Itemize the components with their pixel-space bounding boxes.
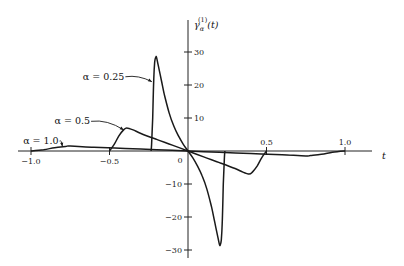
x-tick-label: 1.0 — [339, 138, 352, 147]
y-axis-label-arg: (t) — [207, 19, 219, 30]
y-axis-label: γα(1)(t) — [194, 16, 219, 33]
annotation-leader-arrow — [125, 76, 152, 81]
y-tick-label: 30 — [194, 48, 204, 57]
arrowhead-icon — [60, 142, 63, 146]
x-ticks: −1.0−0.50.51.0 — [21, 138, 351, 166]
x-tick-label: −1.0 — [21, 157, 40, 166]
x-tick-label: 0.5 — [260, 138, 273, 147]
series-annotation-label: α = 1.0 — [23, 135, 59, 146]
y-axis-label-sup: (1) — [198, 16, 208, 24]
x-tick-label: −0.5 — [100, 157, 119, 166]
y-tick-label: 20 — [194, 81, 204, 90]
series-annotation-label: α = 0.25 — [83, 71, 125, 82]
y-tick-label: −30 — [165, 246, 182, 255]
series-annotation-label: α = 0.5 — [55, 115, 91, 126]
y-tick-label: −10 — [165, 180, 182, 189]
annotation-leader-arrow — [91, 121, 124, 130]
chart: −1.0−0.50.51.0 302010−10−20−30 0 t γα(1)… — [0, 0, 404, 266]
annotations: α = 0.25α = 0.5α = 1.0 — [23, 71, 152, 147]
y-tick-label: 10 — [194, 114, 204, 123]
origin-label: 0 — [177, 156, 182, 165]
y-axis-label-sub: α — [200, 25, 205, 33]
x-axis-label: t — [382, 150, 386, 161]
y-tick-label: −20 — [165, 213, 182, 222]
axes: −1.0−0.50.51.0 302010−10−20−30 0 t γα(1)… — [18, 16, 386, 258]
